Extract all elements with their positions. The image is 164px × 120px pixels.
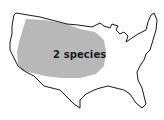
us-map [0, 0, 164, 120]
region-label: 2 species [53, 49, 106, 60]
